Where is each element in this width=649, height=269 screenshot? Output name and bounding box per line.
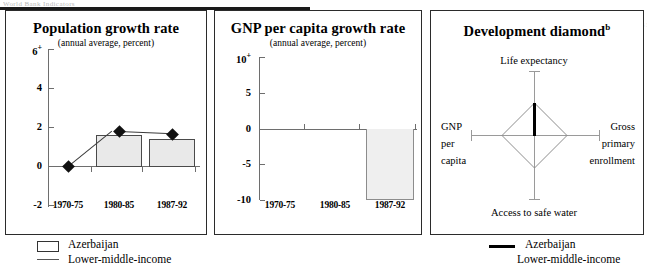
population-ylabel-2: 2 (16, 121, 42, 132)
population-y-axis (48, 49, 49, 207)
legend-left-line-swatch (37, 259, 59, 260)
population-chart-title: Population growth rate (6, 20, 206, 37)
gnp-xlabel-1987-92: 1987-92 (362, 200, 418, 210)
population-ylabel-4: 4 (16, 82, 42, 93)
gnp-ylabel-10: 10+ (225, 51, 251, 65)
gnp-xtick-1 (304, 124, 305, 129)
diamond-top-cap (529, 71, 540, 72)
panel-population-growth-rate: Population growth rate (annual average, … (5, 10, 207, 235)
population-xtick-2 (142, 167, 143, 172)
gnp-xtick-2 (359, 124, 360, 129)
gnp-ytick-m5 (260, 164, 265, 165)
gnp-bar-1987-92 (366, 129, 414, 200)
diamond-label-gross-line3: enrollment (551, 155, 635, 166)
legend-left-bar-swatch (37, 241, 59, 252)
population-ylabel-6: 6+ (16, 43, 42, 57)
legend-left-bar-label: Azerbaijan (68, 238, 118, 250)
diamond-label-gnp-line2: per (441, 138, 485, 149)
diamond-label-gross-line2: primary (551, 138, 635, 149)
diamond-bottom-cap (529, 199, 540, 200)
gnp-ylabel-0: 0 (225, 123, 251, 134)
population-xlabel-1987-92: 1987-92 (144, 200, 200, 210)
population-ylabel-0: 0 (16, 160, 42, 171)
population-line-seg-2 (119, 131, 172, 134)
diamond-label-gross-line1: Gross (551, 121, 635, 132)
population-xlabel-1980-85: 1980-85 (91, 200, 147, 210)
panel-gnp-per-capita-growth-rate: GNP per capita growth rate (annual avera… (214, 10, 422, 235)
legend-right-line-swatch (489, 245, 515, 248)
legend-right-line-label: Azerbaijan (525, 238, 575, 250)
gnp-ytick-10 (260, 57, 265, 58)
population-xlabel-1970-75: 1970-75 (40, 200, 96, 210)
gnp-ylabel-5: 5 (225, 87, 251, 98)
gnp-xtick-3 (415, 124, 416, 129)
panel-development-diamond: Development diamondb Life expectancy Acc… (430, 10, 644, 235)
population-ytick-6 (49, 49, 54, 50)
gnp-ylabel-m5: -5 (225, 158, 251, 169)
gnp-ylabel-m10: -10 (225, 194, 251, 205)
gnp-chart-subtitle: (annual average, percent) (215, 38, 421, 48)
report-page: World Bank Indicators 2.9 3.1 4.2 1.7 2.… (0, 0, 649, 269)
population-xtick-1 (91, 167, 92, 172)
population-ylabel-m2: -2 (16, 199, 42, 210)
diamond-label-access-safe-water: Access to safe water (464, 207, 604, 218)
diamond-chart-title: Development diamondb (431, 22, 643, 40)
diamond-label-life-expectancy: Life expectancy (474, 55, 594, 66)
diamond-azerbaijan-line (533, 103, 536, 136)
population-ytick-4 (49, 88, 54, 89)
gnp-xlabel-1970-75: 1970-75 (252, 200, 308, 210)
gnp-ytick-5 (260, 93, 265, 94)
population-xtick-3 (195, 167, 196, 172)
diamond-title-text: Development diamond (464, 23, 606, 39)
legend-left-line-label: Lower-middle-income (68, 253, 171, 265)
diamond-label-gnp-line3: capita (441, 155, 485, 166)
population-bar-1987-92 (149, 139, 195, 167)
population-ytick-2 (49, 127, 54, 128)
gnp-xlabel-1980-85: 1980-85 (307, 200, 363, 210)
gnp-chart-title: GNP per capita growth rate (215, 20, 421, 37)
legend-right-ref-label: Lower-middle-income (517, 253, 620, 265)
population-bar-1980-85 (96, 135, 142, 167)
diamond-label-gnp-line1: GNP (441, 121, 485, 132)
diamond-title-superscript: b (605, 22, 610, 32)
